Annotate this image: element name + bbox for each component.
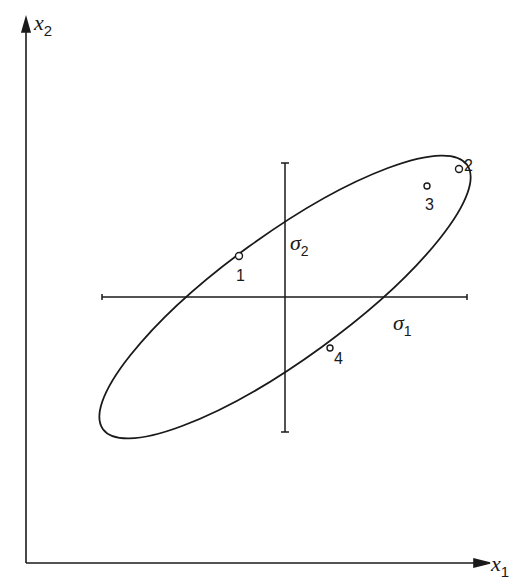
sigma2-label: σ2	[290, 230, 309, 259]
point-4-marker	[327, 345, 333, 351]
point-4-label: 4	[334, 350, 343, 367]
data-points	[236, 166, 463, 352]
principal-axes-cross	[102, 163, 467, 432]
point-1-label: 1	[236, 267, 245, 284]
sigma1-label: σ1	[393, 310, 412, 339]
point-2-marker	[456, 166, 463, 173]
point-3-marker	[424, 183, 430, 189]
ellipse-diagram: x2 x1 σ2 σ1 1 2 3 4	[0, 0, 510, 583]
point-3-label: 3	[425, 196, 434, 213]
point-2-label: 2	[464, 157, 473, 174]
x-axis-arrowhead	[474, 559, 490, 567]
y-axis-arrowhead	[22, 18, 30, 32]
point-1-marker	[236, 253, 243, 260]
y-axis-label: x2	[33, 10, 52, 39]
coordinate-axes	[22, 18, 490, 567]
x-axis-label: x1	[490, 551, 509, 580]
